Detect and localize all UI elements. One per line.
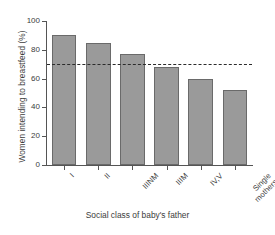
bar [120, 54, 145, 165]
x-tick-mark [201, 166, 202, 170]
y-tick-label: 40 [31, 102, 40, 111]
bar [223, 90, 248, 165]
x-axis-line [46, 165, 253, 166]
bar [86, 43, 111, 165]
bar [188, 79, 213, 165]
y-tick-mark [42, 107, 46, 108]
x-tick-label: II [104, 172, 113, 181]
reference-line [47, 64, 252, 65]
y-tick-label: 100 [27, 16, 40, 25]
x-tick-label: IV,V [209, 172, 225, 188]
bar [154, 67, 179, 165]
y-axis-title: Women intending to breastfeed (%) [18, 17, 27, 177]
x-tick-label: Single mothers [247, 172, 275, 204]
x-tick-mark [64, 166, 65, 170]
y-tick-mark [42, 136, 46, 137]
x-tick-mark [98, 166, 99, 170]
bar-chart-figure: Women intending to breastfeed (%) 020406… [0, 0, 275, 235]
y-tick-mark [42, 79, 46, 80]
y-tick-mark [42, 21, 46, 22]
x-tick-label: I [69, 172, 77, 180]
x-axis-title: Social class of baby's father [0, 210, 275, 220]
bar [52, 35, 77, 165]
x-tick-mark [235, 166, 236, 170]
y-tick-label: 0 [36, 160, 40, 169]
y-tick-mark [42, 50, 46, 51]
x-tick-label: IIINM [142, 172, 161, 191]
x-tick-mark [132, 166, 133, 170]
plot-area [47, 21, 252, 165]
x-tick-label: IIIM [174, 172, 189, 187]
y-tick-mark [42, 165, 46, 166]
x-tick-mark [167, 166, 168, 170]
y-tick-label: 20 [31, 131, 40, 140]
y-tick-label: 60 [31, 74, 40, 83]
y-tick-label: 80 [31, 45, 40, 54]
